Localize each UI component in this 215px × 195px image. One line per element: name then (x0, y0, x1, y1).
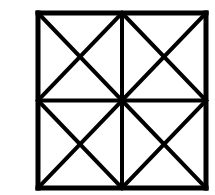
geometric-figure-svg (0, 0, 215, 195)
figure-container: C (0, 0, 215, 195)
segment-layer (38, 13, 206, 188)
